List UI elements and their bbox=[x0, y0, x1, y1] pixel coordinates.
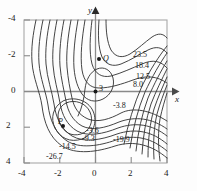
x-tick-label-neg4: -4 bbox=[18, 168, 26, 178]
contour-label-18-4: 18.4 bbox=[135, 61, 149, 70]
contour-label-n14-5: -14.5 bbox=[59, 142, 76, 151]
contour-path-fan-f bbox=[154, 85, 167, 159]
x-tick-label-0: 0 bbox=[92, 168, 97, 178]
contour-label-8-0: 8.0 bbox=[133, 80, 143, 89]
x-tick-label-neg2: -2 bbox=[54, 168, 62, 178]
point-label-p: P bbox=[58, 117, 63, 126]
x-tick-label-4: 4 bbox=[164, 168, 169, 178]
y-axis-ticks bbox=[24, 20, 30, 163]
y-tick-label-neg4: 4 bbox=[6, 156, 11, 166]
contour-plot-canvas bbox=[0, 0, 197, 191]
point-marker-origin bbox=[94, 90, 98, 94]
y-tick-label-4: -4 bbox=[8, 13, 16, 23]
contour-label-n9-3: -9.3 bbox=[82, 134, 95, 143]
x-axis-label: x bbox=[175, 94, 179, 104]
contour-plot-figure: -4 -2 0 2 4 -4 -2 0 2 4 y x 23.5 18.4 12… bbox=[0, 0, 197, 191]
contour-label-n3-8: -3.8 bbox=[113, 101, 126, 110]
contour-path-fan-g bbox=[159, 93, 168, 161]
contour-label-3: 3 bbox=[99, 84, 103, 93]
point-marker-q bbox=[97, 57, 101, 61]
y-tick-label-neg2: 2 bbox=[6, 120, 11, 130]
y-tick-label-2: -2 bbox=[8, 49, 16, 59]
contour-label-23-5: 23.5 bbox=[133, 50, 147, 59]
point-label-q: Q bbox=[103, 54, 109, 63]
x-tick-label-2: 2 bbox=[128, 168, 133, 178]
contour-label-n19-9: -19.9 bbox=[113, 135, 130, 144]
contour-path-8-0 bbox=[81, 20, 167, 88]
y-axis-arrow bbox=[92, 7, 100, 15]
y-tick-label-0: 0 bbox=[11, 85, 16, 95]
y-axis-label: y bbox=[88, 5, 92, 15]
contour-label-n26-7: -26.7 bbox=[46, 152, 63, 161]
